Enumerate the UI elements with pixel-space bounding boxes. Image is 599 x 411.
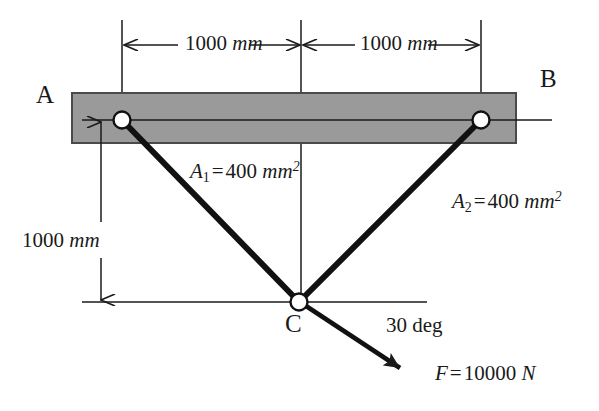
node-label-c: C — [285, 311, 302, 336]
force-symbol: F — [435, 361, 448, 385]
pin-joint-a — [114, 112, 131, 129]
member-1-superscript: 2 — [293, 159, 300, 174]
pin-joint-b — [473, 112, 490, 129]
dimension-label-top-right: 1000 mm — [360, 33, 438, 54]
dimension-vertical-value: 1000 — [22, 228, 64, 252]
node-label-b: B — [540, 66, 557, 91]
force-value: 10000 — [464, 361, 517, 385]
member-2-subscript: 2 — [465, 200, 472, 215]
dimension-top-left-unit: mm — [232, 31, 262, 55]
member-1-subscript: 1 — [203, 170, 210, 185]
force-magnitude-label: F=10000 N — [435, 363, 535, 384]
dimension-vertical-unit: mm — [69, 228, 99, 252]
dimension-label-vertical: 1000 mm — [22, 230, 100, 251]
member-2-superscript: 2 — [555, 189, 562, 204]
pin-joint-c — [291, 294, 308, 311]
member-1-area-label: A1=400 mm2 — [190, 160, 300, 185]
load-angle-label: 30 deg — [386, 315, 443, 336]
member-2-symbol: A — [452, 189, 465, 213]
force-equals: = — [448, 361, 464, 385]
member-1-symbol: A — [190, 159, 203, 183]
dimension-top-right-value: 1000 — [360, 31, 402, 55]
member-1-unit: mm — [262, 159, 292, 183]
member-2-unit: mm — [524, 189, 554, 213]
dimension-label-top-left: 1000 mm — [185, 33, 263, 54]
node-label-a: A — [36, 82, 54, 107]
dimension-top-left-value: 1000 — [185, 31, 227, 55]
member-2-value: 400 — [488, 189, 520, 213]
member-1-value: 400 — [226, 159, 258, 183]
force-unit: N — [521, 361, 535, 385]
figure-canvas: A B C 1000 mm 1000 mm 1000 mm A1=400 mm2… — [0, 0, 599, 411]
member-1-equals: = — [210, 159, 226, 183]
member-2-area-label: A2=400 mm2 — [452, 190, 562, 215]
extension-lines — [122, 20, 481, 300]
dimension-top-right-unit: mm — [407, 31, 437, 55]
member-2-equals: = — [472, 189, 488, 213]
member-1-bar — [122, 120, 299, 302]
